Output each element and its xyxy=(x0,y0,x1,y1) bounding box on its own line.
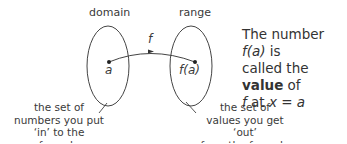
range-description-line-2: values you get ‘out’ xyxy=(198,114,292,139)
domain-description: the set of numbers you put ‘in’ to the f… xyxy=(14,101,104,143)
value-definition-note: The number f(a) is called the value of f… xyxy=(242,26,347,111)
domain-description-line-1: the set of xyxy=(14,101,104,114)
note-math-x-equals-a: x = a xyxy=(269,94,305,110)
input-point-label: a xyxy=(105,63,112,77)
function-arrow xyxy=(109,54,195,63)
note-bold-value: value xyxy=(242,77,283,93)
arrowhead-icon xyxy=(148,50,154,54)
note-text: is xyxy=(266,43,281,59)
range-description-line-3: from the formula xyxy=(198,139,292,144)
note-text: of xyxy=(283,77,300,93)
note-text: called the xyxy=(242,60,309,76)
note-text: The number xyxy=(242,26,324,42)
range-pointer-line xyxy=(186,102,196,113)
note-line-2: called the value of xyxy=(242,60,347,94)
note-math-fa: f(a) xyxy=(242,43,266,59)
domain-description-line-2: numbers you put xyxy=(14,114,104,127)
note-line-3: f at x = a xyxy=(242,94,347,111)
domain-label: domain xyxy=(89,6,130,19)
domain-description-line-3: ‘in’ to the formula xyxy=(14,126,104,143)
function-label: f xyxy=(148,32,152,46)
output-point-label: f(a) xyxy=(179,63,200,77)
note-line-1: The number f(a) is xyxy=(242,26,347,60)
range-label: range xyxy=(179,6,211,19)
note-text: at xyxy=(247,94,269,110)
